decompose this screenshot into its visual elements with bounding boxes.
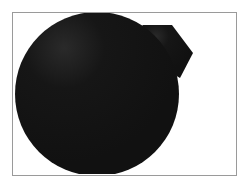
black-shape — [15, 12, 193, 176]
shape-circle — [15, 12, 179, 176]
figure-canvas — [0, 0, 246, 185]
